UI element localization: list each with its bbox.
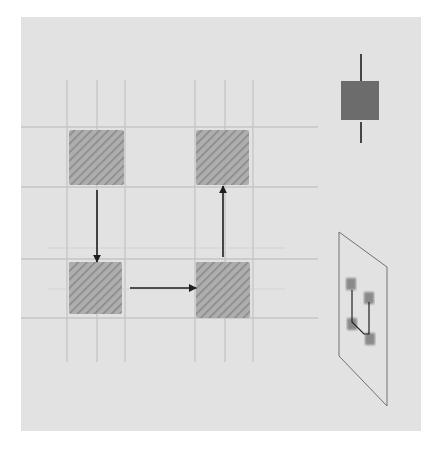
cell-bottom-right xyxy=(196,262,250,318)
diagram-canvas xyxy=(0,0,436,452)
inset-cell xyxy=(365,333,375,345)
inset-plane-outline xyxy=(339,232,387,406)
grid-lines xyxy=(21,80,318,362)
cell-top-right xyxy=(196,130,249,185)
legend-icon xyxy=(341,54,379,143)
legend-square xyxy=(341,81,379,120)
inset-cell xyxy=(346,278,356,290)
cell-top-left xyxy=(69,130,124,185)
cell-bottom-left xyxy=(69,262,122,314)
inset-plane xyxy=(339,232,387,406)
